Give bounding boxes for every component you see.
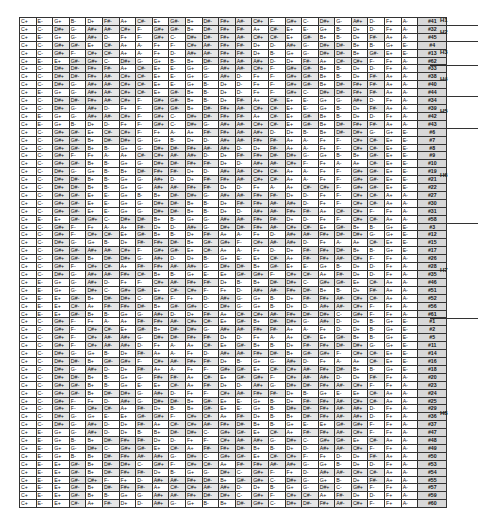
note-cell: B- bbox=[268, 397, 285, 405]
note-cell: E- bbox=[401, 318, 418, 326]
note-cell: D+ bbox=[86, 120, 103, 128]
note-cell: G#+ bbox=[351, 176, 368, 184]
note-cell: B- bbox=[268, 302, 285, 310]
note-cell: F#+ bbox=[318, 429, 335, 437]
note-cell: G#+ bbox=[318, 278, 335, 286]
note-cell: F#- bbox=[136, 239, 153, 247]
note-cell: C#+ bbox=[351, 302, 368, 310]
row-id: #23 bbox=[418, 381, 447, 389]
note-cell: B- bbox=[335, 476, 352, 484]
note-cell: F#+ bbox=[285, 286, 302, 294]
note-cell: B+ bbox=[152, 429, 169, 437]
note-cell: D#+ bbox=[185, 120, 202, 128]
note-cell: F+ bbox=[119, 33, 136, 41]
note-cell: D#+ bbox=[318, 310, 335, 318]
note-cell: F#- bbox=[202, 128, 219, 136]
note-cell: A#- bbox=[102, 112, 119, 120]
note-cell: E+ bbox=[385, 350, 402, 358]
note-cell: E+ bbox=[185, 247, 202, 255]
note-cell: F#+ bbox=[119, 468, 136, 476]
note-cell: A#- bbox=[235, 389, 252, 397]
note-cell: D#+ bbox=[318, 89, 335, 97]
note-cell: C#- bbox=[202, 247, 219, 255]
note-cell: F#+ bbox=[119, 484, 136, 492]
note-cell: D- bbox=[302, 199, 319, 207]
note-cell: C+ bbox=[20, 223, 37, 231]
note-cell: G#+ bbox=[185, 302, 202, 310]
note-cell: G#- bbox=[169, 18, 186, 26]
note-cell: E- bbox=[36, 452, 53, 460]
note-cell: G- bbox=[335, 97, 352, 105]
note-cell: A#- bbox=[102, 334, 119, 342]
row-id: #53 bbox=[418, 460, 447, 468]
note-cell: G+ bbox=[318, 97, 335, 105]
note-cell: E- bbox=[401, 168, 418, 176]
note-cell: C#+ bbox=[351, 294, 368, 302]
note-cell: E- bbox=[401, 49, 418, 57]
note-cell: C+ bbox=[20, 294, 37, 302]
note-cell: C#+ bbox=[119, 81, 136, 89]
note-cell: A+ bbox=[385, 437, 402, 445]
note-cell: B- bbox=[335, 286, 352, 294]
note-cell: A#- bbox=[102, 271, 119, 279]
note-cell: C#- bbox=[136, 89, 153, 97]
note-cell: D#- bbox=[335, 342, 352, 350]
note-cell: C- bbox=[235, 468, 252, 476]
note-cell: G#+ bbox=[219, 239, 236, 247]
note-cell: F#+ bbox=[351, 81, 368, 89]
note-cell: G+ bbox=[385, 128, 402, 136]
note-cell: B- bbox=[335, 65, 352, 73]
note-cell: D+ bbox=[285, 397, 302, 405]
note-cell: G#- bbox=[235, 271, 252, 279]
note-cell: G+ bbox=[53, 437, 70, 445]
note-cell: B- bbox=[268, 484, 285, 492]
note-cell: C- bbox=[302, 278, 319, 286]
note-cell: C#- bbox=[268, 429, 285, 437]
note-cell: A- bbox=[169, 128, 186, 136]
note-cell: F- bbox=[136, 120, 153, 128]
note-cell: F+ bbox=[119, 476, 136, 484]
note-cell: D#- bbox=[235, 263, 252, 271]
note-cell: F#+ bbox=[285, 207, 302, 215]
note-cell: G- bbox=[69, 278, 86, 286]
note-cell: F#- bbox=[202, 310, 219, 318]
note-cell: F+ bbox=[318, 215, 335, 223]
note-cell: B+ bbox=[86, 437, 103, 445]
note-cell: F#+ bbox=[219, 57, 236, 65]
note-cell: C#- bbox=[368, 357, 385, 365]
note-cell: B- bbox=[268, 413, 285, 421]
note-cell: F- bbox=[335, 191, 352, 199]
note-cell: G- bbox=[136, 389, 153, 397]
note-cell: B+ bbox=[86, 389, 103, 397]
note-cell: C+ bbox=[20, 73, 37, 81]
note-cell: F- bbox=[69, 318, 86, 326]
note-cell: C- bbox=[136, 294, 153, 302]
note-cell: C+ bbox=[20, 144, 37, 152]
note-cell: C#+ bbox=[285, 373, 302, 381]
group-divider bbox=[430, 318, 478, 319]
note-cell: G- bbox=[136, 492, 153, 500]
note-cell: C- bbox=[36, 263, 53, 271]
note-cell: F- bbox=[335, 144, 352, 152]
note-cell: F+ bbox=[86, 397, 103, 405]
note-cell: B+ bbox=[318, 33, 335, 41]
note-cell: G+ bbox=[53, 452, 70, 460]
note-cell: F+ bbox=[385, 373, 402, 381]
note-cell: G#- bbox=[302, 350, 319, 358]
note-cell: A- bbox=[102, 223, 119, 231]
note-cell: C- bbox=[36, 357, 53, 365]
note-cell: E+ bbox=[285, 25, 302, 33]
note-cell: G#+ bbox=[285, 81, 302, 89]
note-cell: F#+ bbox=[318, 342, 335, 350]
note-cell: C#+ bbox=[351, 144, 368, 152]
note-cell: A- bbox=[401, 492, 418, 500]
note-cell: G#+ bbox=[53, 199, 70, 207]
note-cell: E- bbox=[302, 25, 319, 33]
note-cell: C#+ bbox=[185, 413, 202, 421]
note-cell: B+ bbox=[185, 97, 202, 105]
note-cell: A#+ bbox=[219, 484, 236, 492]
note-cell: D+ bbox=[152, 437, 169, 445]
note-cell: A- bbox=[302, 144, 319, 152]
note-cell: A#+ bbox=[86, 421, 103, 429]
note-cell: F#+ bbox=[318, 365, 335, 373]
